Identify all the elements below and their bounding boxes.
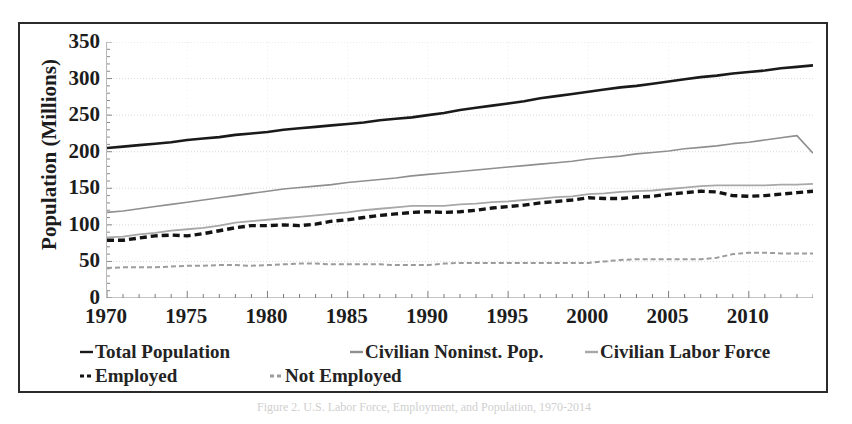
legend-entry[interactable]: Civilian Labor Force: [585, 342, 770, 361]
y-tick-label: 50: [44, 250, 100, 271]
legend-row-1: Total PopulationCivilian Noninst. Pop.Ci…: [60, 342, 790, 365]
x-tick-label: 1975: [165, 306, 207, 327]
legend-line-icon: [80, 345, 93, 359]
x-tick-label: 2010: [727, 306, 769, 327]
x-tick-label: 1985: [326, 306, 368, 327]
legend-label: Employed: [95, 366, 177, 385]
legend-line-icon: [350, 345, 363, 359]
chart-frame: Population (Millions) 350300250200150100…: [18, 22, 828, 393]
x-tick-label: 2005: [647, 306, 689, 327]
figure-caption: Figure 2. U.S. Labor Force, Employment, …: [18, 400, 830, 422]
legend-entry[interactable]: Employed: [80, 366, 177, 385]
legend-entry[interactable]: Not Employed: [270, 366, 402, 385]
y-axis-tick-labels: 350300250200150100500: [38, 24, 100, 314]
y-tick-label: 300: [44, 68, 100, 89]
x-tick-label: 1995: [486, 306, 528, 327]
legend-entry[interactable]: Total Population: [80, 342, 230, 361]
legend-label: Civilian Labor Force: [600, 342, 770, 361]
chart-plot-svg: [107, 42, 813, 298]
series-line: [107, 253, 813, 268]
legend-label: Not Employed: [285, 366, 402, 385]
plot-area: [106, 42, 813, 298]
legend-label: Civilian Noninst. Pop.: [365, 342, 543, 361]
y-tick-label: 100: [44, 214, 100, 235]
legend-entry[interactable]: Civilian Noninst. Pop.: [350, 342, 543, 361]
legend-line-icon: [585, 345, 598, 359]
legend-row-2: EmployedNot Employed: [60, 366, 790, 389]
series-line: [107, 136, 813, 213]
series-line: [107, 65, 813, 148]
legend-line-icon: [270, 369, 283, 383]
x-tick-label: 2000: [566, 306, 608, 327]
chart-legend: Total PopulationCivilian Noninst. Pop.Ci…: [60, 342, 790, 392]
x-tick-label: 1970: [85, 306, 127, 327]
y-tick-label: 150: [44, 177, 100, 198]
x-axis-tick-labels: 197019751980198519901995200020052010: [106, 306, 812, 336]
legend-line-icon: [80, 369, 93, 383]
y-tick-label: 350: [44, 31, 100, 52]
x-tick-label: 1990: [406, 306, 448, 327]
y-tick-label: 200: [44, 141, 100, 162]
x-tick-label: 1980: [245, 306, 287, 327]
figure-container: Population (Millions) 350300250200150100…: [0, 0, 852, 424]
legend-label: Total Population: [95, 342, 230, 361]
y-tick-label: 250: [44, 104, 100, 125]
